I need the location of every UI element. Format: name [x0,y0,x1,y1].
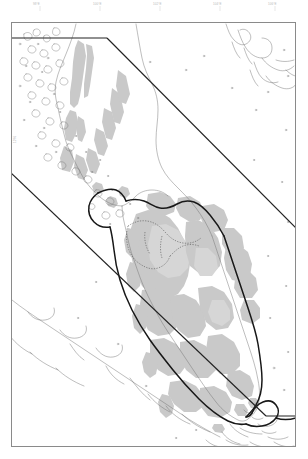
top-tick-label-5: 106°E [268,2,277,6]
graticule-ticks [40,6,275,11]
map-canvas [0,0,308,459]
map-container: 98°E 100°E 102°E 104°E 106°E 12°N [0,0,308,459]
top-tick-label-3: 102°E [153,2,162,6]
forest-cover-layer [60,40,260,433]
left-tick-label-1: 12°N [13,136,17,143]
top-tick-label-2: 100°E [93,2,102,6]
top-tick-label-4: 104°E [213,2,222,6]
top-tick-label-1: 98°E [33,2,40,6]
